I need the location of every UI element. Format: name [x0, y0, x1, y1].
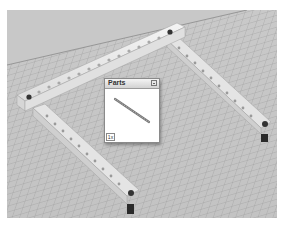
collapse-icon[interactable]	[151, 80, 157, 86]
parts-window-titlebar[interactable]: Parts	[105, 79, 159, 89]
parts-window[interactable]: Parts 1x	[104, 78, 160, 143]
technic-beam-icon[interactable]	[105, 89, 159, 133]
part-count-badge: 1x	[106, 133, 115, 141]
axle-pin-left[interactable]	[127, 204, 134, 214]
parts-window-title: Parts	[108, 78, 126, 88]
axle-pin-right[interactable]	[261, 134, 268, 142]
